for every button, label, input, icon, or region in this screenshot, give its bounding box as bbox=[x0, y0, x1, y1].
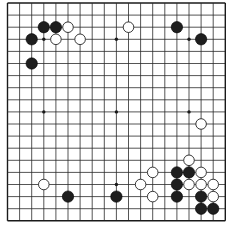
black-stone bbox=[208, 203, 219, 214]
white-stone bbox=[63, 22, 74, 33]
white-stone bbox=[196, 119, 207, 130]
black-stone bbox=[50, 22, 61, 33]
black-stone bbox=[195, 191, 206, 202]
black-stone bbox=[111, 191, 122, 202]
star-point bbox=[115, 38, 118, 41]
white-stone bbox=[51, 34, 62, 45]
white-stone bbox=[208, 179, 219, 190]
white-stone bbox=[39, 179, 50, 190]
star-point bbox=[42, 110, 45, 113]
black-stone bbox=[195, 34, 206, 45]
stones-layer bbox=[26, 22, 219, 215]
black-stone bbox=[195, 203, 206, 214]
white-stone bbox=[147, 191, 158, 202]
star-point bbox=[187, 38, 190, 41]
black-stone bbox=[171, 191, 182, 202]
black-stone bbox=[171, 167, 182, 178]
star-point bbox=[42, 38, 45, 41]
black-stone bbox=[38, 22, 49, 33]
go-board[interactable] bbox=[0, 0, 231, 227]
black-stone bbox=[183, 167, 194, 178]
white-stone bbox=[184, 179, 195, 190]
star-point bbox=[115, 110, 118, 113]
star-point bbox=[187, 110, 190, 113]
black-stone bbox=[26, 34, 37, 45]
white-stone bbox=[75, 34, 86, 45]
white-stone bbox=[147, 167, 158, 178]
black-stone bbox=[171, 179, 182, 190]
white-stone bbox=[196, 179, 207, 190]
white-stone bbox=[196, 167, 207, 178]
white-stone bbox=[184, 155, 195, 166]
white-stone bbox=[135, 179, 146, 190]
black-stone bbox=[171, 22, 182, 33]
white-stone bbox=[208, 191, 219, 202]
black-stone bbox=[26, 58, 37, 69]
black-stone bbox=[62, 191, 73, 202]
white-stone bbox=[123, 22, 134, 33]
star-point bbox=[115, 183, 118, 186]
